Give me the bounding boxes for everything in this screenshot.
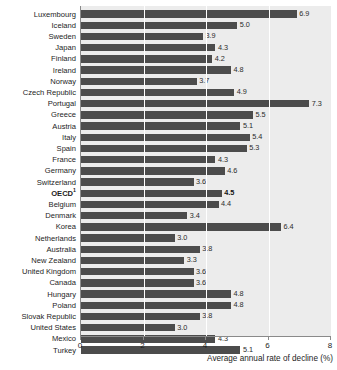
category-label: Spain (0, 143, 76, 154)
bar (81, 55, 212, 62)
bar-value-label: 4.3 (218, 155, 228, 165)
gridline (269, 6, 270, 336)
category-label: United States (0, 322, 76, 333)
bar-value-label: 3.7 (199, 76, 209, 86)
category-label: Iceland (0, 20, 76, 31)
bar (81, 290, 231, 297)
bar (81, 33, 203, 40)
bar-value-label: 4.9 (237, 87, 247, 97)
category-label: Greece (0, 109, 76, 120)
x-axis-tick-label: 8 (328, 340, 332, 351)
gridline (206, 6, 207, 336)
bar-value-label: 5.3 (249, 143, 259, 153)
bar-value-label: 3.4 (190, 211, 200, 221)
category-label: Korea (0, 221, 76, 232)
category-label: Austria (0, 121, 76, 132)
bar-value-label: 5.0 (240, 20, 250, 30)
bar (81, 268, 194, 275)
gridline (331, 6, 332, 336)
bar (81, 178, 194, 185)
bar (81, 302, 231, 309)
bar-value-label: 3.8 (202, 311, 212, 321)
footnote-marker: 1 (73, 187, 76, 193)
category-label: Hungary (0, 289, 76, 300)
bar-value-label: 3.0 (177, 323, 187, 333)
x-axis-tick-label: 0 (78, 340, 82, 351)
bar-value-label: 4.8 (234, 65, 244, 75)
category-axis-labels: LuxembourgIcelandSwedenJapanFinlandIrela… (0, 6, 76, 336)
category-label: Ireland (0, 65, 76, 76)
category-label: Switzerland (0, 177, 76, 188)
bar (81, 22, 237, 29)
bar (81, 167, 225, 174)
x-axis-tick-label: 6 (265, 340, 269, 351)
bar (81, 122, 240, 129)
category-label: Sweden (0, 31, 76, 42)
clipped-chart-title (80, 0, 330, 5)
category-label: Canada (0, 277, 76, 288)
category-label: Mexico (0, 333, 76, 344)
bar-value-label: 4.8 (234, 300, 244, 310)
category-label: Finland (0, 53, 76, 64)
gridline (144, 6, 145, 336)
x-axis-tick-label: 2 (140, 340, 144, 351)
bar-value-label: 5.1 (243, 121, 253, 131)
category-label: Norway (0, 76, 76, 87)
bar-value-label: 4.8 (234, 289, 244, 299)
bar-value-label: 4.2 (215, 54, 225, 64)
category-label: Germany (0, 165, 76, 176)
bar (81, 234, 175, 241)
bar-value-label: 5.4 (252, 132, 262, 142)
category-label: Netherlands (0, 233, 76, 244)
plot-area: 6.95.03.94.34.24.83.74.97.35.55.15.45.34… (80, 6, 331, 336)
x-axis-tick-label: 4 (203, 340, 207, 351)
bar (81, 145, 247, 152)
category-label: Slovak Republic (0, 311, 76, 322)
bar-value-label: 3.0 (177, 233, 187, 243)
bar-value-label: 3.6 (196, 278, 206, 288)
bar (81, 257, 184, 264)
category-label: Belgium (0, 199, 76, 210)
bar-value-label: 3.6 (196, 267, 206, 277)
bar-value-label: 3.3 (187, 255, 197, 265)
bar (81, 10, 297, 17)
bar (81, 134, 250, 141)
bar (81, 111, 253, 118)
category-label: United Kingdom (0, 266, 76, 277)
category-label: New Zealand (0, 255, 76, 266)
bar (81, 190, 222, 197)
bar (81, 223, 281, 230)
bar (81, 156, 215, 163)
x-axis-title: Average annual rate of decline (%) (0, 354, 333, 363)
category-label: Australia (0, 244, 76, 255)
bar (81, 346, 240, 353)
bar (81, 66, 231, 73)
category-label: Luxembourg (0, 9, 76, 20)
bar-value-label: 7.3 (312, 99, 322, 109)
category-label: Italy (0, 132, 76, 143)
bar (81, 246, 200, 253)
bar-value-label: 6.9 (299, 9, 309, 19)
category-label: Poland (0, 300, 76, 311)
bar (81, 89, 234, 96)
bar-value-label: 6.4 (284, 222, 294, 232)
category-label: OECD1 (0, 188, 76, 199)
category-label: Denmark (0, 210, 76, 221)
bar-value-label: 3.8 (202, 244, 212, 254)
bar (81, 279, 194, 286)
bar-value-label: 4.6 (227, 166, 237, 176)
bar-value-label: 3.6 (196, 177, 206, 187)
bar-value-label: 4.3 (218, 43, 228, 53)
bar (81, 44, 215, 51)
category-label: France (0, 154, 76, 165)
bar (81, 324, 175, 331)
category-label: Portugal (0, 98, 76, 109)
bar-value-label: 4.4 (221, 199, 231, 209)
bar (81, 78, 197, 85)
bar-value-label: 4.5 (224, 188, 234, 198)
bar (81, 212, 187, 219)
bar (81, 201, 219, 208)
category-label: Japan (0, 42, 76, 53)
bar-chart: LuxembourgIcelandSwedenJapanFinlandIrela… (0, 0, 337, 370)
bar (81, 313, 200, 320)
